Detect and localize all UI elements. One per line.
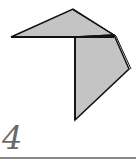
- top-triangle-flap: [11, 9, 114, 37]
- divider-rule: [0, 157, 136, 159]
- step-number: 4: [2, 122, 22, 154]
